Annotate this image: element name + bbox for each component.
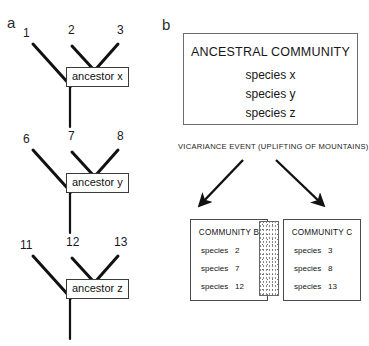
- cladogram-tree-1: 1 2 3 ancestor x: [0, 22, 172, 134]
- species-number: 12: [235, 282, 244, 291]
- tip-label: 13: [114, 235, 127, 249]
- ancestral-community-box: ANCESTRAL COMMUNITY species x species y …: [183, 33, 358, 125]
- arrow-to-community-c: [276, 160, 323, 205]
- species-word: species: [294, 264, 328, 273]
- tip-label: 7: [68, 129, 75, 143]
- tip-label: 8: [117, 129, 124, 143]
- ancestor-label-box: ancestor x: [66, 67, 129, 87]
- species-word: species: [201, 246, 235, 255]
- community-b-species-item: species7: [201, 264, 239, 273]
- tip-label: 2: [68, 23, 75, 37]
- community-c-box: COMMUNITY C species3 species8 species13: [283, 219, 361, 301]
- arrow-to-community-b: [200, 160, 243, 205]
- species-number: 3: [328, 246, 332, 255]
- vicariance-split-arrows: [183, 155, 353, 217]
- panel-b-letter: b: [162, 16, 170, 33]
- species-word: species: [294, 246, 328, 255]
- ancestral-species-item: species y: [184, 87, 357, 101]
- species-number: 13: [328, 282, 337, 291]
- cladogram-tree-2: 6 7 8 ancestor y: [0, 128, 172, 240]
- tip-label: 11: [20, 238, 32, 252]
- community-c-title: COMMUNITY C: [284, 228, 360, 237]
- ancestral-community-title: ANCESTRAL COMMUNITY: [184, 45, 357, 59]
- community-b-box: COMMUNITY B species2 species7 species12: [190, 219, 268, 301]
- vicariance-event-label: VICARIANCE EVENT (UPLIFTING OF MOUNTAINS…: [178, 142, 369, 151]
- species-number: 7: [235, 264, 239, 273]
- community-c-species-item: species8: [294, 264, 332, 273]
- species-number: 8: [328, 264, 332, 273]
- ancestral-species-item: species z: [184, 106, 357, 120]
- community-b-title: COMMUNITY B: [191, 228, 267, 237]
- species-word: species: [294, 282, 328, 291]
- cladogram-tree-3: 11 12 13 ancestor z: [0, 234, 172, 346]
- tip-label: 1: [23, 26, 30, 40]
- community-b-species-item: species2: [201, 246, 239, 255]
- community-c-species-item: species3: [294, 246, 332, 255]
- species-number: 2: [235, 246, 239, 255]
- species-word: species: [201, 264, 235, 273]
- tip-label: 3: [117, 23, 124, 37]
- ancestral-species-item: species x: [184, 68, 357, 82]
- community-c-species-item: species13: [294, 282, 337, 291]
- tip-label: 12: [66, 235, 79, 249]
- ancestor-label-box: ancestor y: [66, 173, 129, 193]
- mountain-barrier-stipple: [259, 221, 279, 296]
- community-b-species-item: species12: [201, 282, 244, 291]
- species-word: species: [201, 282, 235, 291]
- tip-label: 6: [23, 132, 30, 146]
- ancestor-label-box: ancestor z: [66, 279, 129, 299]
